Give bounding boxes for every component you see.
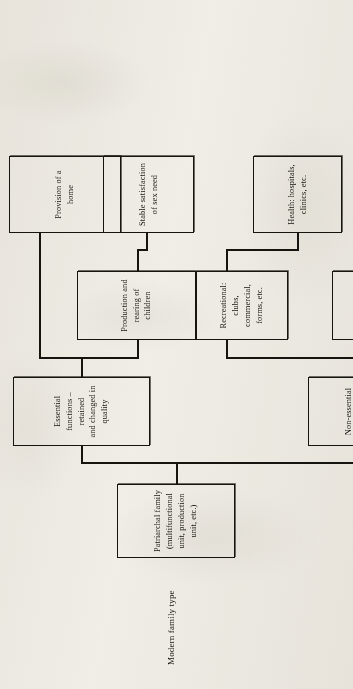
node-non-essential-functions-line1: Non-essential functions –	[343, 381, 353, 442]
node-patriarchal-family-line1: Patriarchal family	[152, 488, 164, 554]
connector-nonessential-split-vertical	[226, 358, 353, 360]
node-production-rearing-children[interactable]: Production and rearing of children	[77, 271, 196, 340]
node-production-rearing-children-line2: rearing of children	[131, 275, 155, 336]
node-health-line2: clinics, etc.	[298, 164, 310, 224]
node-economic[interactable]: Economic: specialized work; various	[332, 271, 353, 340]
diagram-canvas: Modern family type Patriarchal family (m…	[0, 0, 353, 689]
node-stable-satisfaction-sex-need[interactable]: Stable satisfaction of sex need	[103, 156, 194, 233]
node-recreational-line3: forms, etc.	[254, 275, 266, 336]
node-essential-functions-line1: Essential functions – retained	[52, 381, 88, 442]
node-essential-functions[interactable]: Essential functions – retained and chang…	[13, 377, 150, 446]
node-health-line1: Health: hospitals,	[286, 164, 298, 224]
node-recreational-line2: clubs, commercial,	[230, 275, 254, 336]
connector-essential-to-provision	[39, 233, 41, 359]
node-health[interactable]: Health: hospitals, clinics, etc.	[253, 156, 342, 233]
connector-nonessential-to-recreational	[226, 340, 228, 359]
node-provision-of-a-home-line1: Provision of a home	[53, 160, 77, 229]
node-recreational-line1: Recreational:	[218, 275, 230, 336]
connector-root-split-vertical	[81, 463, 353, 465]
connector-recreational-vertical	[226, 250, 298, 252]
connector-recreational-to-health	[297, 233, 299, 251]
node-stable-satisfaction-line2: of sex need	[149, 163, 161, 226]
node-production-rearing-children-line1: Production and	[119, 275, 131, 336]
connector-essential-stem	[81, 358, 83, 378]
connector-root-stem	[176, 463, 178, 485]
node-non-essential-functions[interactable]: Non-essential functions – transferred an…	[308, 377, 353, 446]
node-patriarchal-family-line2: (multifunctional unit, production unit, …	[164, 488, 200, 554]
page-title: Modern family type	[166, 590, 176, 665]
connector-recreational-stem	[226, 250, 228, 272]
connector-production-to-stable	[146, 233, 148, 251]
connector-essential-split-vertical	[39, 358, 138, 360]
connector-essential-to-production	[137, 340, 139, 359]
connector-to-essential	[81, 446, 83, 464]
node-patriarchal-family[interactable]: Patriarchal family (multifunctional unit…	[117, 484, 235, 558]
node-recreational[interactable]: Recreational: clubs, commercial, forms, …	[196, 271, 288, 340]
node-essential-functions-line2: and changed in quality	[87, 381, 111, 442]
connector-production-stem	[137, 250, 139, 272]
node-stable-satisfaction-line1: Stable satisfaction	[137, 163, 149, 226]
